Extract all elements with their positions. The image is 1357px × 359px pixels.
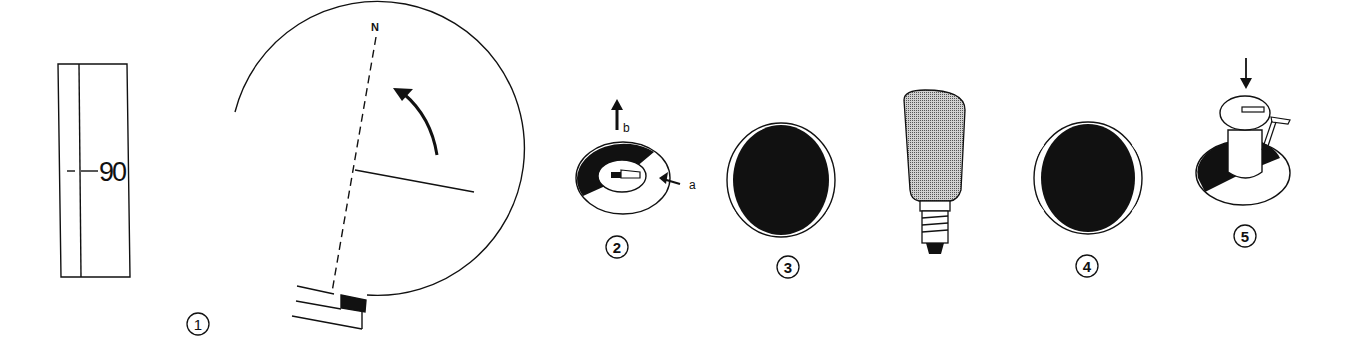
arrow-a-label: a [689, 178, 696, 192]
ring-diagram [576, 142, 670, 214]
rotation-arrow-icon [393, 88, 437, 155]
light-bulb-icon [904, 90, 965, 254]
dark-disc-3 [723, 123, 840, 237]
dark-disc-4 [1031, 122, 1145, 234]
step-3-badge: 3 [777, 256, 799, 278]
instruction-diagram: 90 N 1 b a 2 [0, 0, 1357, 359]
svg-text:1: 1 [194, 316, 202, 333]
compass-baseplate [292, 286, 366, 329]
step-2-badge: 2 [606, 236, 628, 258]
scale-value: 90 [99, 157, 126, 187]
step-4-badge: 4 [1076, 255, 1098, 277]
svg-text:5: 5 [1241, 228, 1249, 245]
svg-text:2: 2 [613, 239, 621, 256]
arrow-b-icon [611, 99, 623, 130]
step-1-badge: 1 [187, 313, 209, 335]
socket-diagram [1196, 96, 1290, 205]
step-5-badge: 5 [1234, 225, 1256, 247]
svg-text:4: 4 [1083, 258, 1092, 275]
svg-text:3: 3 [784, 259, 792, 276]
compass-dial [235, 1, 524, 295]
press-down-arrow-icon [1240, 58, 1252, 89]
arrow-b-label: b [623, 121, 630, 135]
north-label: N [371, 21, 379, 33]
